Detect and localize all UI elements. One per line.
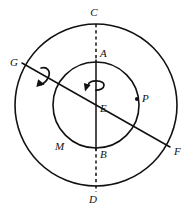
point-label-f: F — [173, 145, 181, 157]
point-label-e: E — [99, 102, 107, 114]
point-label-b: B — [100, 148, 107, 160]
rotation-arrow-vertical — [84, 81, 104, 92]
point-label-d: D — [88, 193, 97, 205]
point-label-p: P — [141, 92, 149, 104]
geometry-diagram: C A E P F G M B D — [0, 0, 192, 215]
point-label-c: C — [90, 6, 98, 18]
point-marker-p — [135, 97, 139, 101]
point-label-g: G — [10, 56, 18, 68]
point-label-m: M — [54, 140, 65, 152]
point-label-a: A — [99, 47, 107, 59]
figure-container: C A E P F G M B D — [0, 0, 192, 215]
